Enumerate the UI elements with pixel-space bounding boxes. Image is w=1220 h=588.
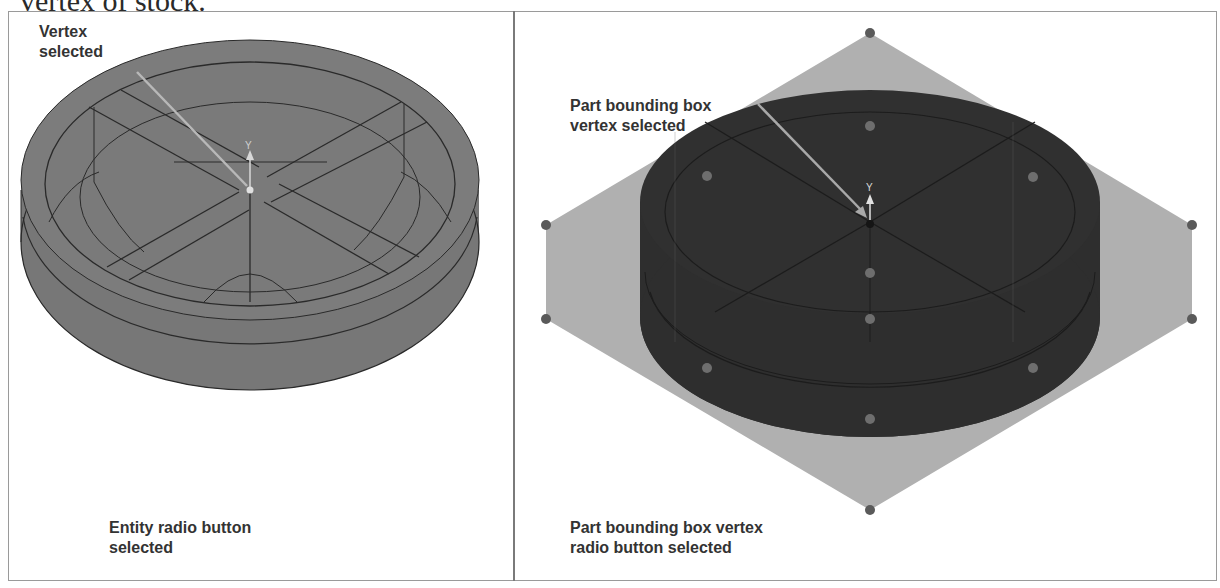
part-entity-view <box>9 12 512 580</box>
entity-radio-caption: Entity radio button selected <box>109 518 251 558</box>
bounding-box-radio-caption: Part bounding box vertex radio button se… <box>570 518 763 558</box>
left-panel-entity-selection: Y Vertex selected Entity radio button se… <box>9 12 512 580</box>
selected-vertex-marker <box>247 187 254 194</box>
vertex-selected-callout: Vertex selected <box>39 22 103 62</box>
selected-bounding-vertex <box>866 220 874 228</box>
bounding-box-vertex-callout: Part bounding box vertex selected <box>570 96 711 136</box>
right-panel-bounding-box-selection: Y Part bounding box vertex selected Part… <box>515 12 1216 580</box>
y-axis-label: Y <box>245 136 252 156</box>
y-axis-label: Y <box>866 178 873 198</box>
